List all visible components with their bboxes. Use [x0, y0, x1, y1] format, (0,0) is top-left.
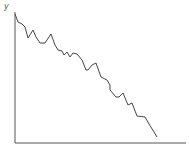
- chart-canvas: [0, 0, 189, 159]
- data-line: [15, 14, 157, 137]
